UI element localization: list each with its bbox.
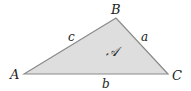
vertex-label-c: C bbox=[172, 68, 182, 83]
triangle-diagram: A B C c a b 𝒜 bbox=[0, 0, 191, 91]
side-label-a: a bbox=[141, 30, 148, 44]
side-label-c: c bbox=[68, 30, 75, 44]
vertex-label-a: A bbox=[9, 67, 19, 82]
vertex-label-b: B bbox=[110, 2, 121, 17]
side-label-b: b bbox=[102, 77, 110, 91]
triangle-shape bbox=[24, 18, 168, 74]
